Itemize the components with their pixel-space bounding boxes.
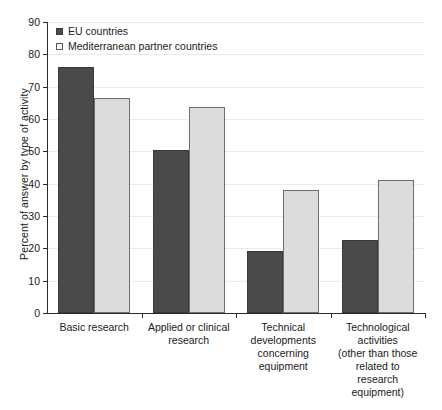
y-tick-mark — [43, 248, 47, 249]
gridline — [48, 87, 425, 88]
legend-label-eu: EU countries — [68, 25, 128, 37]
x-category-label-line: Technological — [331, 321, 426, 334]
plot-area: 0102030405060708090 Basic researchApplie… — [47, 22, 425, 313]
y-tick-mark — [43, 184, 47, 185]
x-category-label-line: developments — [236, 334, 331, 347]
y-tick-label: 20 — [28, 242, 40, 254]
x-category-label-line: related to — [331, 360, 426, 373]
x-category-label-line: Basic research — [47, 321, 142, 334]
x-category-label-0: Basic research — [47, 321, 142, 334]
x-category-label-line: concerning — [236, 347, 331, 360]
y-tick-label: 0 — [34, 307, 40, 319]
x-tick-mark-end — [425, 313, 426, 318]
x-category-label-line: activities — [331, 334, 426, 347]
x-category-label-line: equipment — [236, 360, 331, 373]
legend-item-eu: EU countries — [56, 24, 217, 38]
y-tick-label: 90 — [28, 16, 40, 28]
bar-med-1 — [189, 107, 225, 313]
bar-med-0 — [94, 98, 130, 313]
x-category-label-line: Applied or clinical — [142, 321, 237, 334]
y-tick-label: 10 — [28, 275, 40, 287]
y-tick-label: 30 — [28, 210, 40, 222]
legend-label-med: Mediterranean partner countries — [68, 40, 217, 52]
bar-chart: Percent of answer by type of activity 01… — [0, 0, 442, 410]
y-tick-mark — [43, 22, 47, 23]
y-tick-label: 80 — [28, 48, 40, 60]
legend-swatch-icon-med — [56, 43, 63, 50]
x-category-label-3: Technologicalactivities(other than those… — [331, 321, 426, 399]
y-tick-mark — [43, 54, 47, 55]
y-tick-mark — [43, 313, 47, 314]
x-category-label-line: Technical — [236, 321, 331, 334]
legend-item-med: Mediterranean partner countries — [56, 39, 217, 53]
legend-swatch-icon-eu — [56, 28, 63, 35]
bar-eu-3 — [342, 240, 378, 313]
gridline — [48, 22, 425, 23]
y-axis-line — [47, 22, 48, 313]
bar-med-2 — [283, 190, 319, 313]
y-tick-label: 40 — [28, 178, 40, 190]
x-category-label-line: research — [331, 373, 426, 386]
bar-med-3 — [378, 180, 414, 313]
bar-eu-0 — [58, 67, 94, 313]
y-tick-label: 60 — [28, 113, 40, 125]
y-tick-mark — [43, 281, 47, 282]
legend: EU countries Mediterranean partner count… — [56, 24, 217, 54]
y-tick-mark — [43, 216, 47, 217]
y-tick-mark — [43, 87, 47, 88]
y-tick-label: 70 — [28, 81, 40, 93]
x-tick-mark — [331, 313, 332, 318]
bar-eu-2 — [247, 251, 283, 313]
y-tick-label: 50 — [28, 145, 40, 157]
x-tick-mark — [236, 313, 237, 318]
x-category-label-line: research — [142, 334, 237, 347]
x-category-label-line: (other than those — [331, 347, 426, 360]
x-tick-mark — [142, 313, 143, 318]
x-category-label-1: Applied or clinicalresearch — [142, 321, 237, 347]
bar-eu-1 — [153, 150, 189, 313]
x-category-label-line: equipment) — [331, 386, 426, 399]
x-category-label-2: Technicaldevelopmentsconcerningequipment — [236, 321, 331, 373]
gridline — [48, 54, 425, 55]
y-tick-mark — [43, 151, 47, 152]
y-tick-mark — [43, 119, 47, 120]
